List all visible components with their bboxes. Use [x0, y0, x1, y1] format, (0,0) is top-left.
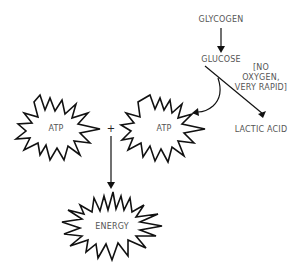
arrow-curved-to-atp — [192, 78, 220, 116]
annotation-line-2: OXYGEN, — [242, 74, 279, 82]
lactic-acid-label: LACTIC ACID — [235, 126, 288, 134]
energy-label: ENERGY — [95, 223, 129, 231]
glycogen-label: GLYCOGEN — [199, 16, 244, 24]
arrow-glycogen-to-glucose — [217, 28, 225, 53]
atp-left-label: ATP — [48, 125, 63, 133]
annotation-line-3: VERY RAPID] — [235, 84, 287, 92]
diagram-canvas — [0, 0, 303, 272]
atp-right-label: ATP — [156, 125, 171, 133]
plus-sign: + — [107, 124, 116, 134]
glucose-label: GLUCOSE — [201, 56, 241, 64]
arrow-atp-to-energy — [107, 136, 115, 189]
annotation-line-1: [NO — [253, 64, 269, 72]
